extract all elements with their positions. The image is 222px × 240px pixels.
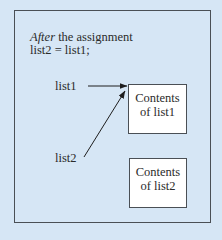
caption-line-2: list2 = list1;	[30, 44, 133, 57]
variable-label-list2: list2	[55, 152, 77, 165]
variable-label-list1: list1	[55, 80, 77, 93]
box-line-1: Contents	[129, 91, 186, 105]
contents-of-list1-box: Contents of list1	[128, 84, 187, 134]
box-line-2: of list1	[129, 105, 186, 119]
caption-line-1-rest: the assignment	[55, 30, 133, 44]
caption-italic-word: After	[30, 30, 55, 44]
box-line-2: of list2	[130, 179, 186, 193]
caption: After the assignment list2 = list1;	[30, 31, 133, 57]
contents-of-list2-box: Contents of list2	[129, 158, 187, 208]
box-line-1: Contents	[130, 165, 186, 179]
